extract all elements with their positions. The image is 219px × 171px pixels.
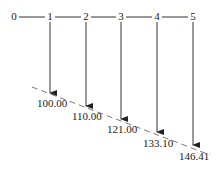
value-label-2: 110.00 [72,111,102,122]
timeline-diagram [0,0,219,171]
value-label-3: 121.00 [107,124,137,135]
period-3-label: 3 [118,11,124,22]
value-label-5: 146.41 [179,151,209,162]
period-1-label: 1 [47,11,53,22]
period-5-label: 5 [190,11,196,22]
period-4-label: 4 [154,11,160,22]
value-label-1: 100.00 [37,98,67,109]
value-label-4: 133.10 [143,138,173,149]
period-2-label: 2 [83,11,89,22]
period-0-label: 0 [11,11,17,22]
